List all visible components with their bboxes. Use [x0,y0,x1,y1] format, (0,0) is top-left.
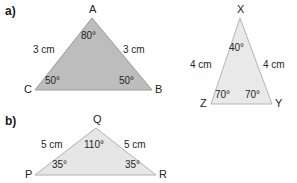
side-label-pq: 5 cm [41,140,63,150]
angle-label-q: 110° [84,140,104,150]
angle-label-p: 35° [52,160,67,170]
vertex-label-r: R [159,169,167,180]
figure-page: a) A B C 80° 50° 50° 3 cm 3 cm X Y Z 40°… [0,0,297,183]
triangle-pqr-figure [0,0,297,183]
vertex-label-p: P [25,169,32,180]
side-label-qr: 5 cm [124,140,146,150]
angle-label-r: 35° [125,160,140,170]
vertex-label-q: Q [93,114,102,125]
